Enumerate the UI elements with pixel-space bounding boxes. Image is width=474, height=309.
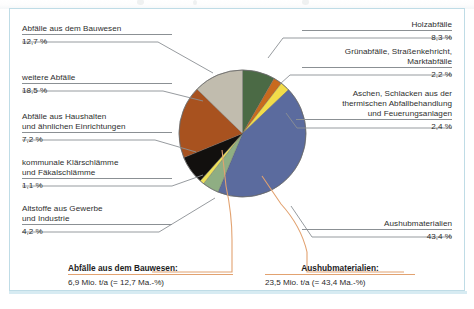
label-klaerschlamm-pct: 1,1 % xyxy=(22,179,172,191)
label-klaerschlamm-line2: und Fäkalschlämme xyxy=(22,168,172,178)
callout-aushub-head: Aushubmaterialien: xyxy=(265,263,415,273)
label-haushalte-pct: 7,2 % xyxy=(22,133,172,145)
label-aushub-line1: Aushubmaterialien xyxy=(302,219,452,229)
label-aushub-pct: 43,4 % xyxy=(302,230,452,242)
label-bauwesen-pct: 12,7 % xyxy=(22,35,172,47)
label-holzabfaelle: Holzabfälle 8,3 % xyxy=(302,20,452,43)
label-weitere-abfaelle: weitere Abfälle 18,5 % xyxy=(22,73,172,96)
label-aschen-line2: thermischen Abfallbehandlung xyxy=(296,99,452,109)
label-aschen-line1: Aschen, Schlacken aus der xyxy=(296,89,452,99)
callout-bauwesen-sub: 6,9 Mio. t/a (= 12,7 Ma.-%) xyxy=(68,275,233,288)
callout-aushub: Aushubmaterialien: 23,5 Mio. t/a (= 43,4… xyxy=(265,263,415,288)
label-bauwesen: Abfälle aus dem Bauwesen 12,7 % xyxy=(22,24,172,47)
label-weitere-pct: 18,5 % xyxy=(22,84,172,96)
label-aschen-line3: und Feuerungsanlagen xyxy=(296,109,452,119)
label-aschen-schlacken: Aschen, Schlacken aus der thermischen Ab… xyxy=(296,89,452,131)
label-weitere-line1: weitere Abfälle xyxy=(22,73,172,83)
label-altstoffe: Altstoffe aus Gewerbe und Industrie 4,2 … xyxy=(22,204,172,237)
callout-bauwesen: Abfälle aus dem Bauwesen: 6,9 Mio. t/a (… xyxy=(68,263,233,288)
label-altstoffe-line2: und Industrie xyxy=(22,214,172,224)
label-aushubmaterialien: Aushubmaterialien 43,4 % xyxy=(302,219,452,242)
label-altstoffe-pct: 4,2 % xyxy=(22,225,172,237)
label-haushalte-line2: und ähnlichen Einrichtungen xyxy=(22,122,172,132)
label-holz-pct: 8,3 % xyxy=(302,31,452,43)
label-bauwesen-line1: Abfälle aus dem Bauwesen xyxy=(22,24,172,34)
label-klaerschlamm-line1: kommunale Klärschlämme xyxy=(22,158,172,168)
callout-aushub-sub: 23,5 Mio. t/a (= 43,4 Ma.-%) xyxy=(265,275,415,288)
label-gruen-line1: Grünabfälle, Straßenkehricht, xyxy=(302,47,452,57)
label-altstoffe-line1: Altstoffe aus Gewerbe xyxy=(22,204,172,214)
label-gruen-line2: Marktabfälle xyxy=(302,57,452,67)
label-haushalte: Abfälle aus Haushalten und ähnlichen Ein… xyxy=(22,112,172,145)
label-gruen-pct: 2,2 % xyxy=(302,68,452,80)
label-klaerschlamm: kommunale Klärschlämme und Fäkalschlämme… xyxy=(22,158,172,191)
label-gruenabfaelle: Grünabfälle, Straßenkehricht, Marktabfäl… xyxy=(302,47,452,80)
label-haushalte-line1: Abfälle aus Haushalten xyxy=(22,112,172,122)
label-holz-line1: Holzabfälle xyxy=(302,20,452,30)
label-aschen-pct: 2,4 % xyxy=(296,120,452,132)
callout-bauwesen-head: Abfälle aus dem Bauwesen: xyxy=(68,263,233,273)
